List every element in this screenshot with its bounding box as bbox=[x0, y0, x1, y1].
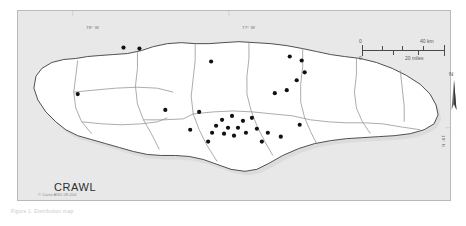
scale-bar-line bbox=[362, 50, 444, 51]
figure-caption: Figure 1. Distribution map bbox=[11, 208, 73, 214]
graticule-label-78w: 78° W bbox=[86, 25, 99, 30]
north-needle-icon bbox=[446, 80, 462, 114]
scale-tick-minor-2 bbox=[402, 46, 403, 51]
map-credit: © Carto ANU 08-004 bbox=[38, 192, 77, 197]
scale-km-max-label: 40 km bbox=[420, 38, 434, 44]
scale-tick-end bbox=[444, 45, 445, 56]
distribution-map-figure: 78° W 77° W 18° N 0 40 km 0 20 miles bbox=[0, 0, 466, 226]
scale-km-zero-label: 0 bbox=[359, 38, 362, 44]
north-label: N bbox=[449, 71, 453, 77]
scale-tick-minor-3 bbox=[423, 46, 424, 51]
scale-tick-miles-1 bbox=[393, 50, 394, 55]
graticule-label-18n: 18° N bbox=[441, 135, 446, 147]
graticule-label-77w: 77° W bbox=[242, 25, 255, 30]
scale-tick-minor-1 bbox=[382, 46, 383, 51]
north-arrow: N bbox=[446, 71, 462, 113]
scale-miles-max-label: 20 miles bbox=[405, 55, 424, 61]
scale-bar: 0 40 km 0 20 miles bbox=[348, 37, 453, 67]
map-frame: 78° W 77° W 18° N 0 40 km 0 20 miles bbox=[17, 10, 451, 201]
figure-area: 78° W 77° W 18° N 0 40 km 0 20 miles bbox=[0, 0, 466, 204]
scale-tick-start bbox=[362, 45, 363, 56]
scale-miles-zero-label: 0 bbox=[359, 55, 362, 61]
